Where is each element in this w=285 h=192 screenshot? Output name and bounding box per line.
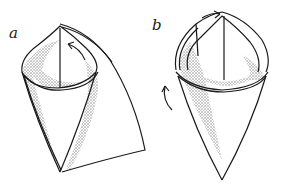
figure-b-cone xyxy=(162,11,268,180)
figure-label-b: b xyxy=(152,16,162,34)
figure-a-cone xyxy=(22,24,145,172)
figure-label-a: a xyxy=(9,24,18,42)
cone-folding-illustration xyxy=(0,0,285,192)
